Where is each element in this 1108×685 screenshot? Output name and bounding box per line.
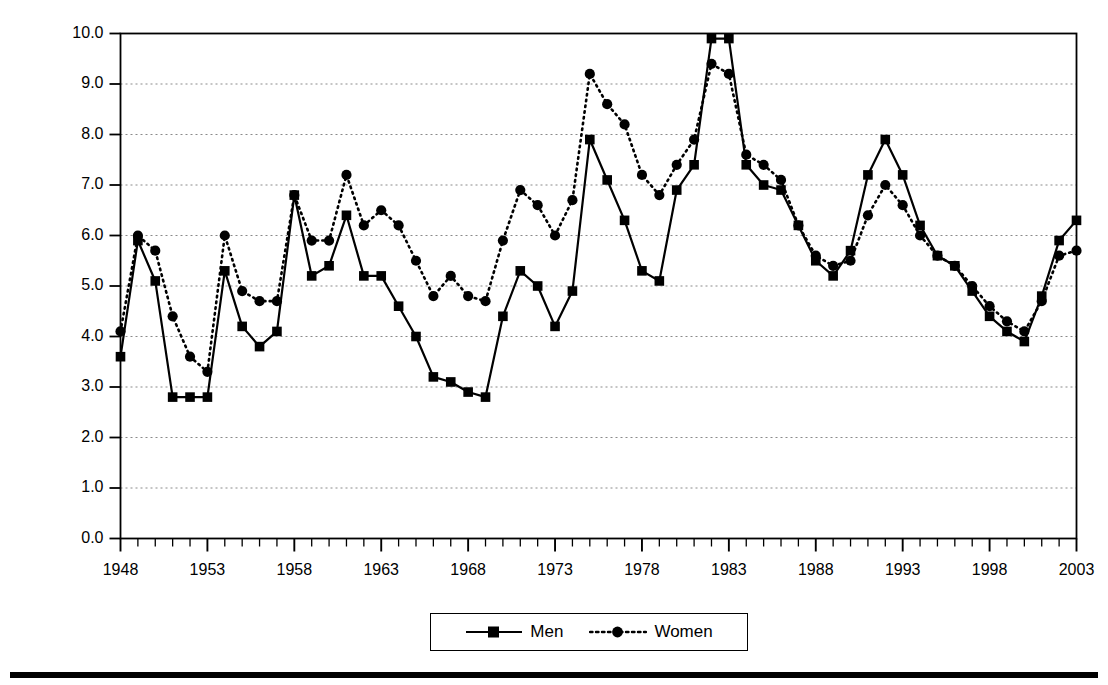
data-point-marker [481,392,491,402]
y-axis-tick-label: 9.0 [56,74,104,92]
data-point-marker [1054,236,1064,246]
data-point-marker [567,195,577,205]
data-point-marker [533,200,543,210]
data-point-marker [550,322,560,332]
y-axis-tick-label: 0.0 [56,529,104,547]
bottom-divider-rule [10,672,1098,678]
data-point-marker [915,221,925,231]
data-point-marker [203,392,213,402]
data-point-marker [359,271,369,281]
data-point-marker [446,271,456,281]
data-point-marker [672,160,682,170]
data-point-marker [185,352,195,362]
data-point-marker [1002,316,1012,326]
data-point-marker [1072,216,1082,226]
data-point-marker [480,296,490,306]
x-axis-tick-label: 1988 [781,561,851,579]
data-point-marker [863,210,873,220]
plot-frame [121,34,1077,539]
data-point-marker [220,266,230,276]
data-point-marker [689,160,699,170]
data-point-marker [150,246,160,256]
x-axis-tick-label: 1973 [520,561,590,579]
data-point-marker [446,377,456,387]
y-axis-tick-label: 1.0 [56,478,104,496]
data-point-marker [394,220,404,230]
data-point-marker [411,256,421,266]
data-point-marker [898,200,908,210]
data-point-marker [307,235,317,245]
data-point-marker [828,271,838,281]
legend-label-women: Women [654,622,712,642]
data-point-marker [637,266,647,276]
data-point-marker [585,135,595,145]
data-point-marker [741,160,751,170]
x-axis-tick-label: 2003 [1042,561,1108,579]
data-point-marker [950,261,960,271]
data-point-marker [654,190,664,200]
data-point-marker [602,175,612,185]
data-point-marker [637,170,647,180]
data-point-marker [863,170,873,180]
data-point-marker [341,170,351,180]
chart-plot-area [0,0,1108,685]
data-point-marker [220,230,230,240]
data-point-marker [672,185,682,195]
data-point-marker [463,291,473,301]
data-point-marker [254,296,264,306]
data-point-marker [515,185,525,195]
data-point-marker [394,301,404,311]
data-point-marker [985,312,995,322]
y-axis-tick-label: 2.0 [56,428,104,446]
data-point-marker [498,312,508,322]
data-point-marker [463,387,473,397]
data-point-marker [776,175,786,185]
data-point-marker [933,251,943,261]
series-line-women [121,64,1077,372]
data-point-marker [724,34,734,44]
data-point-marker [185,392,195,402]
data-point-marker [498,235,508,245]
data-point-marker [376,271,386,281]
data-point-marker [359,220,369,230]
data-point-marker [759,180,769,190]
data-point-marker [655,276,665,286]
legend-label-men: Men [530,622,563,642]
x-axis-tick-label: 1953 [172,561,242,579]
x-axis-tick-label: 1993 [868,561,938,579]
data-point-marker [1037,291,1047,301]
data-point-marker [620,216,630,226]
x-axis-tick-label: 1958 [259,561,329,579]
data-point-marker [1002,327,1012,337]
y-axis-tick-label: 3.0 [56,377,104,395]
data-point-marker [550,230,560,240]
data-point-marker [116,352,126,362]
data-point-marker [585,69,595,79]
data-point-marker [707,34,717,44]
legend-swatch-women-icon [589,623,647,641]
data-point-marker [1020,337,1030,347]
legend-item-women: Women [589,622,712,642]
data-point-marker [324,235,334,245]
x-axis-tick-label: 1963 [346,561,416,579]
y-axis-tick-label: 10.0 [56,24,104,42]
y-axis-tick-label: 5.0 [56,276,104,294]
data-point-marker [846,246,856,256]
data-point-marker [307,271,317,281]
data-point-marker [898,170,908,180]
legend-swatch-men-icon [465,623,523,641]
y-axis-tick-label: 4.0 [56,327,104,345]
chart-figure: Percent 0.01.02.03.04.05.06.07.08.09.010… [0,0,1108,685]
data-point-marker [515,266,525,276]
data-point-marker [533,281,543,291]
data-point-marker [376,205,386,215]
data-point-marker [342,211,352,221]
data-point-marker [290,190,300,200]
data-point-marker [255,342,265,352]
data-point-marker [759,160,769,170]
data-point-marker [237,322,247,332]
data-point-marker [776,185,786,195]
data-point-marker [168,311,178,321]
x-axis-tick-label: 1968 [433,561,503,579]
legend-item-men: Men [465,622,563,642]
